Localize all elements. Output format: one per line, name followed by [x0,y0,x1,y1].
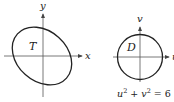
region-d-label: D [126,41,136,54]
left-diagram: x y T [1,0,91,97]
eq-rhs: = 6 [151,88,171,99]
right-diagram: u v D u2 + v2 = 6 [113,13,174,99]
u-axis-label: u [172,51,174,62]
y-axis-label: y [39,0,46,11]
region-t-label: T [29,40,38,53]
v-axis-label: v [137,13,143,24]
circle-equation: u2 + v2 = 6 [117,87,171,99]
x-axis-label: x [85,50,91,61]
diagram-canvas: x y T u v D u2 + v2 = 6 [0,0,174,102]
eq-plus: + [127,88,141,99]
